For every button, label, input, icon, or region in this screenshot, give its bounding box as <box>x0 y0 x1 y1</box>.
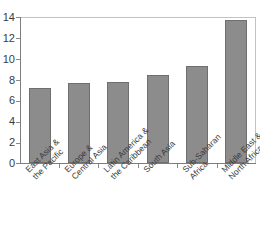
bar-chart: 14 12 10 8 6 4 2 0 <box>0 0 260 234</box>
x-axis-category-labels: East Asia & the Pacific Europe & Central… <box>0 163 260 234</box>
